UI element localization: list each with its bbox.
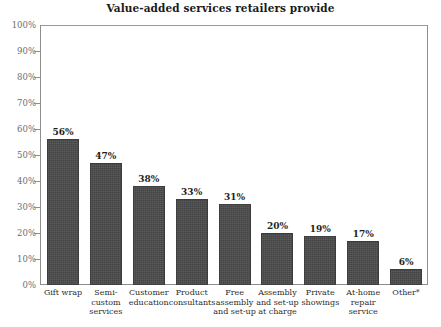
y-axis-tick-label: 40%: [0, 176, 36, 186]
bar-value-label: 38%: [127, 174, 171, 184]
page-title: Value-added services retailers provide: [0, 2, 441, 14]
x-axis-tick-label-line: Customer: [126, 288, 172, 298]
y-axis-tick-label: 0%: [0, 280, 36, 290]
y-axis-tick-label: 100%: [0, 20, 36, 30]
x-axis-tick-label-line: education: [126, 298, 172, 308]
bar-value-label: 19%: [298, 224, 342, 234]
bar-group[interactable]: 19%: [304, 25, 336, 285]
bar-group[interactable]: 56%: [47, 25, 79, 285]
bar[interactable]: [261, 233, 293, 285]
x-axis-tick-label: Privateshowings: [297, 288, 343, 307]
y-axis: 0%10%20%30%40%50%60%70%80%90%100%: [0, 25, 38, 285]
x-axis-tick-label-line: services: [83, 307, 129, 317]
y-axis-tick-mark: [34, 259, 40, 260]
y-axis-tick-mark: [34, 103, 40, 104]
x-axis-tick-label-line: assembly: [212, 298, 258, 308]
bar-group[interactable]: 38%: [133, 25, 165, 285]
x-axis-tick-label-line: Other*: [383, 288, 429, 298]
y-axis-tick-label: 80%: [0, 72, 36, 82]
bar[interactable]: [90, 163, 122, 285]
y-axis-tick-label: 60%: [0, 124, 36, 134]
y-axis-tick-mark: [34, 77, 40, 78]
bar-value-label: 47%: [84, 151, 128, 161]
bar-value-label: 31%: [213, 192, 257, 202]
x-axis-tick-label-line: Private: [297, 288, 343, 298]
x-axis-tick-label-line: custom: [83, 298, 129, 308]
bar-value-label: 6%: [384, 257, 428, 267]
y-axis-tick-mark: [34, 129, 40, 130]
bar-value-label: 20%: [255, 221, 299, 231]
y-axis-tick-mark: [34, 51, 40, 52]
bar-value-label: 56%: [41, 127, 85, 137]
bar-group[interactable]: 17%: [347, 25, 379, 285]
x-axis-tick-label: Other*: [383, 288, 429, 298]
y-axis-tick-mark: [34, 181, 40, 182]
x-axis-tick-label-line: Free: [212, 288, 258, 298]
y-axis-tick-label: 30%: [0, 202, 36, 212]
bar[interactable]: [47, 139, 79, 285]
bar-group[interactable]: 33%: [176, 25, 208, 285]
bar-value-label: 17%: [341, 229, 385, 239]
bar[interactable]: [176, 199, 208, 285]
x-axis-tick-label-line: repair: [340, 298, 386, 308]
x-axis-tick-label: Customereducation: [126, 288, 172, 307]
bar-group[interactable]: 31%: [219, 25, 251, 285]
x-axis-tick-label: At-homerepairservice: [340, 288, 386, 317]
x-axis-tick-label: Semi-customservices: [83, 288, 129, 317]
x-axis-tick-label: Gift wrap: [40, 288, 86, 298]
x-axis-tick-label-line: and set-up: [212, 307, 258, 317]
bar[interactable]: [390, 269, 422, 285]
y-axis-tick-label: 90%: [0, 46, 36, 56]
x-axis-tick-label-line: service: [340, 307, 386, 317]
bar-group[interactable]: 6%: [390, 25, 422, 285]
bar[interactable]: [304, 236, 336, 285]
bars-layer: 56%47%38%33%31%20%19%17%6%: [41, 25, 427, 285]
y-axis-tick-label: 20%: [0, 228, 36, 238]
x-axis-tick-label-line: consultants: [169, 298, 215, 308]
y-axis-tick-label: 10%: [0, 254, 36, 264]
x-axis-tick-label: Productconsultants: [169, 288, 215, 307]
x-axis-tick-label-line: Gift wrap: [40, 288, 86, 298]
y-axis-tick-label: 70%: [0, 98, 36, 108]
bar-group[interactable]: 47%: [90, 25, 122, 285]
x-axis-tick-label-line: showings: [297, 298, 343, 308]
x-axis-tick-label: Freeassemblyand set-up: [212, 288, 258, 317]
bar-value-label: 33%: [170, 187, 214, 197]
bar[interactable]: [219, 204, 251, 285]
y-axis-tick-mark: [34, 233, 40, 234]
x-axis-tick-label-line: and set-up: [254, 298, 300, 308]
bar[interactable]: [347, 241, 379, 285]
bar[interactable]: [133, 186, 165, 285]
x-axis-tick-label: Assemblyand set-upat charge: [254, 288, 300, 317]
x-axis-tick-label-line: Semi-: [83, 288, 129, 298]
x-axis-tick-label-line: Assembly: [254, 288, 300, 298]
x-axis: Gift wrapSemi-customservicesCustomereduc…: [41, 288, 427, 327]
y-axis-tick-label: 50%: [0, 150, 36, 160]
y-axis-tick-mark: [34, 155, 40, 156]
bar-group[interactable]: 20%: [261, 25, 293, 285]
chart-page: Value-added services retailers provide 0…: [0, 0, 441, 327]
x-axis-tick-label-line: at charge: [254, 307, 300, 317]
x-axis-tick-label-line: At-home: [340, 288, 386, 298]
x-axis-tick-label-line: Product: [169, 288, 215, 298]
y-axis-tick-mark: [34, 207, 40, 208]
